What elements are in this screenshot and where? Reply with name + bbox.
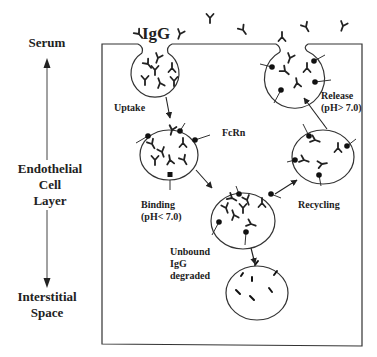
- binding-ph-label: (pH< 7.0): [141, 211, 182, 223]
- uptake-arrow: [166, 97, 170, 118]
- igg-small-label: IgG: [170, 258, 187, 270]
- unbound-label: Unbound: [170, 246, 210, 258]
- uptake-label: Uptake: [114, 102, 145, 114]
- serum-label: Serum: [25, 36, 69, 51]
- release-ph-label: (pH> 7.0): [321, 102, 362, 114]
- recycling-vesicle: [287, 124, 356, 186]
- binding-vesicle: [136, 123, 210, 190]
- flow-arrows: [166, 97, 327, 264]
- binding-arrow: [196, 170, 212, 188]
- binding-label: Binding: [141, 199, 175, 211]
- endothelial-label: Endothelial: [10, 162, 90, 177]
- sorting-vesicle: [211, 186, 281, 249]
- recycling-arrow: [275, 180, 297, 194]
- space-label: Space: [7, 306, 87, 321]
- release-label: Release: [321, 90, 353, 102]
- cell-label: Cell: [10, 178, 90, 193]
- fcrn-label: FcRn: [222, 127, 245, 139]
- degraded-label: degraded: [170, 270, 210, 282]
- recycling-label: Recycling: [298, 199, 340, 211]
- interstitial-label: Interstitial: [7, 290, 87, 305]
- layer-label: Layer: [10, 194, 90, 209]
- uptake-vesicle: [131, 53, 179, 97]
- degradation-arrow: [251, 248, 255, 264]
- degradation-vesicle: [226, 261, 288, 320]
- igg-label: IgG: [142, 24, 170, 44]
